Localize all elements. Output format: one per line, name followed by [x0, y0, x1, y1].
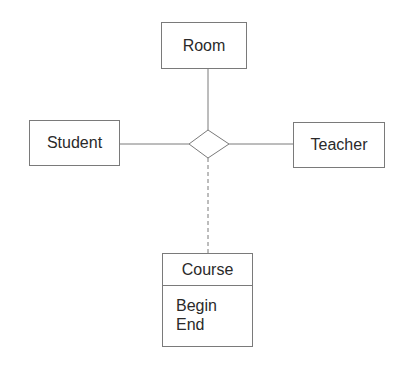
course-attribute: Begin — [176, 296, 252, 315]
entity-student: Student — [29, 120, 120, 166]
course-attributes: Begin End — [163, 286, 252, 334]
entity-room-label: Room — [183, 37, 226, 55]
entity-teacher: Teacher — [293, 122, 385, 168]
course-header: Course — [163, 254, 252, 286]
course-attribute: End — [176, 315, 252, 334]
entity-teacher-label: Teacher — [311, 136, 368, 154]
association-class-course: Course Begin End — [162, 253, 253, 347]
relationship-diamond — [189, 130, 229, 158]
entity-student-label: Student — [47, 134, 102, 152]
course-name: Course — [182, 261, 234, 279]
entity-room: Room — [161, 22, 247, 69]
